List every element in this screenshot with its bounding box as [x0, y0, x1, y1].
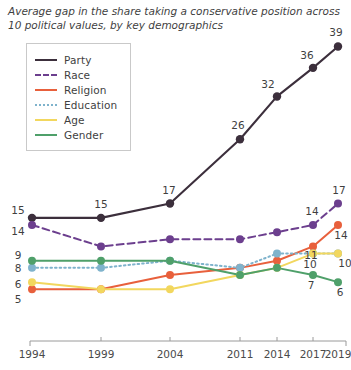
data-point-gender-2019[interactable] — [334, 278, 342, 286]
data-label-age-2017: 10 — [303, 258, 316, 270]
legend-label-party: Party — [64, 54, 91, 66]
data-point-religion-2019[interactable] — [334, 221, 342, 229]
data-label-religion-2019: 14 — [334, 229, 348, 241]
data-point-party-2004[interactable] — [166, 199, 174, 207]
series-line-religion — [32, 225, 338, 289]
data-label-age-1994: 6 — [15, 278, 22, 290]
legend-swatch-race-icon — [35, 70, 57, 80]
data-point-religion-2014[interactable] — [273, 257, 281, 265]
legend-item-race[interactable]: Race — [35, 67, 124, 82]
legend-swatch-education-icon — [35, 100, 57, 110]
legend-swatch-age-icon — [35, 115, 57, 125]
data-point-gender-2014[interactable] — [273, 264, 281, 272]
data-point-race-2011[interactable] — [236, 235, 244, 243]
data-label-gender-1994: 9 — [15, 249, 22, 261]
legend-label-education: Education — [64, 99, 117, 111]
legend-item-education[interactable]: Education — [35, 97, 124, 112]
data-point-party-2017[interactable] — [309, 64, 317, 72]
data-point-gender-2017[interactable] — [309, 271, 317, 279]
data-label-race-2017: 14 — [305, 205, 319, 217]
legend-label-religion: Religion — [64, 84, 107, 96]
legend-label-gender: Gender — [64, 129, 103, 141]
x-axis-label-1994: 1994 — [19, 348, 46, 360]
data-point-gender-2004[interactable] — [166, 257, 174, 265]
data-point-age-1999[interactable] — [97, 285, 105, 293]
data-point-gender-2011[interactable] — [236, 271, 244, 279]
data-label-race-2019: 17 — [332, 184, 345, 196]
data-label-education-2019: 10 — [338, 257, 351, 269]
data-label-party-1999: 15 — [94, 198, 107, 210]
data-point-party-1994[interactable] — [28, 214, 36, 222]
legend-label-race: Race — [64, 69, 90, 81]
data-label-party-2011: 26 — [231, 119, 245, 131]
legend-item-religion[interactable]: Religion — [35, 82, 124, 97]
data-point-race-2019[interactable] — [334, 200, 342, 208]
data-point-party-2011[interactable] — [236, 135, 244, 143]
x-axis: 1994199920042011201420172019 — [19, 337, 351, 360]
x-axis-label-1999: 1999 — [88, 348, 115, 360]
chart-container: Average gap in the share taking a conser… — [0, 0, 351, 370]
legend-item-party[interactable]: Party — [35, 52, 124, 67]
data-label-gender-2017: 7 — [308, 279, 315, 291]
data-point-race-1994[interactable] — [28, 221, 36, 229]
chart-legend: Party Race Religion Education Age Gender — [26, 43, 131, 151]
data-point-education-2011[interactable] — [236, 264, 244, 272]
data-point-gender-1999[interactable] — [97, 257, 105, 265]
data-point-race-2004[interactable] — [166, 235, 174, 243]
legend-item-gender[interactable]: Gender — [35, 127, 124, 142]
data-label-party-1994: 15 — [11, 204, 24, 216]
series-line-gender — [32, 261, 338, 282]
data-label-gender-2019: 6 — [337, 286, 344, 298]
x-axis-label-2017: 2017 — [300, 348, 327, 360]
legend-swatch-party-icon — [35, 55, 57, 65]
legend-label-age: Age — [64, 114, 85, 126]
data-label-party-2014: 32 — [261, 78, 274, 90]
x-axis-label-2019: 2019 — [325, 348, 351, 360]
data-point-race-1999[interactable] — [97, 242, 105, 250]
data-label-race-1994: 14 — [11, 225, 25, 237]
data-point-race-2017[interactable] — [309, 221, 317, 229]
data-label-religion-1994: 5 — [15, 293, 22, 305]
data-point-party-2019[interactable] — [334, 42, 342, 50]
data-label-education-1994: 8 — [15, 262, 22, 274]
data-point-education-1999[interactable] — [97, 264, 105, 272]
legend-swatch-religion-icon — [35, 85, 57, 95]
data-point-education-2014[interactable] — [273, 250, 281, 258]
data-point-religion-2004[interactable] — [166, 271, 174, 279]
data-point-age-1994[interactable] — [28, 278, 36, 286]
x-axis-label-2004: 2004 — [157, 348, 184, 360]
data-point-party-2014[interactable] — [273, 92, 281, 100]
data-label-party-2017: 36 — [300, 49, 314, 61]
series-line-race — [32, 204, 338, 247]
legend-item-age[interactable]: Age — [35, 112, 124, 127]
data-point-gender-1994[interactable] — [28, 257, 36, 265]
data-point-party-1999[interactable] — [97, 214, 105, 222]
legend-swatch-gender-icon — [35, 130, 57, 140]
data-point-education-1994[interactable] — [28, 264, 36, 272]
data-point-age-2004[interactable] — [166, 285, 174, 293]
x-axis-label-2011: 2011 — [227, 348, 254, 360]
data-point-race-2014[interactable] — [273, 228, 281, 236]
x-axis-label-2014: 2014 — [264, 348, 291, 360]
data-label-party-2004: 17 — [162, 184, 175, 196]
data-label-party-2019: 39 — [329, 26, 342, 38]
data-point-religion-1994[interactable] — [28, 285, 36, 293]
